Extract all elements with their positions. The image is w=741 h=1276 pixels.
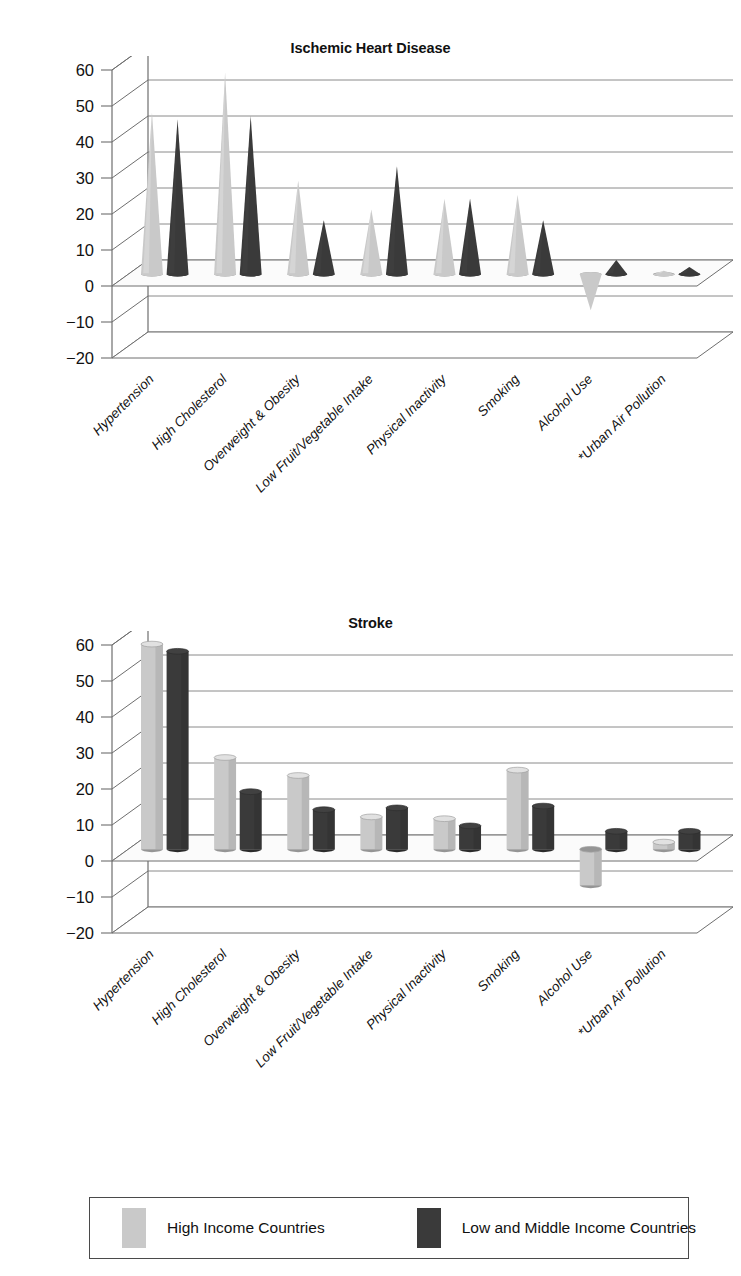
bar-low-middle-income	[605, 828, 627, 852]
chart-legend: High Income Countries Low and Middle Inc…	[89, 1197, 689, 1259]
y-axis-tick-label: −10	[66, 888, 94, 906]
bar-low-middle-income	[313, 807, 335, 852]
bar-high-income	[580, 272, 602, 310]
bar-low-middle-income	[240, 789, 262, 852]
legend-entry-low-middle-income: Low and Middle Income Countries	[417, 1208, 696, 1248]
legend-swatch-dark-icon	[417, 1208, 441, 1248]
plot-area-ischemic-heart-disease: 6050403020100−10−20HypertensionHigh Chol…	[0, 56, 741, 576]
x-axis-category-label: Smoking	[475, 371, 523, 419]
bar-low-middle-income	[532, 803, 554, 852]
y-axis-tick-label: 10	[76, 241, 94, 259]
y-axis-tick-label: 50	[76, 97, 94, 115]
y-axis-tick-label: 40	[76, 133, 94, 151]
chart-title-ischemic-heart-disease: Ischemic Heart Disease	[0, 0, 741, 56]
x-axis-category-label: Alcohol Use	[533, 372, 595, 434]
bar-high-income	[580, 846, 602, 888]
chart-title-stroke: Stroke	[0, 580, 741, 631]
y-axis-tick-label: 0	[85, 277, 94, 295]
x-axis-category-label: Low Fruit/Vegetable Intake	[252, 372, 376, 496]
bar-high-income	[141, 641, 163, 852]
x-axis-category-label: High Cholesterol	[149, 371, 231, 453]
y-axis-tick-label: −20	[66, 924, 94, 942]
plot-area-stroke: 6050403020100−10−20HypertensionHigh Chol…	[0, 631, 741, 1131]
y-axis-tick-label: 50	[76, 672, 94, 690]
bar-low-middle-income	[167, 648, 189, 852]
y-axis-tick-label: 40	[76, 708, 94, 726]
x-axis-category-label: Smoking	[475, 946, 523, 994]
bar-low-middle-income	[459, 823, 481, 852]
y-axis-tick-label: 60	[76, 61, 94, 79]
x-axis-category-label: Alcohol Use	[533, 947, 595, 1009]
x-axis-category-label: Physical Inactivity	[363, 946, 450, 1033]
y-axis-tick-label: 30	[76, 169, 94, 187]
chart-ischemic-heart-disease: Ischemic Heart Disease 6050403020100−10−…	[0, 0, 741, 580]
x-axis-category-label: Hypertension	[90, 372, 157, 439]
chart-stroke: Stroke 6050403020100−10−20HypertensionHi…	[0, 580, 741, 1140]
y-axis-tick-label: 10	[76, 816, 94, 834]
x-axis-category-label: Hypertension	[90, 947, 157, 1014]
y-axis-tick-label: 0	[85, 852, 94, 870]
y-axis-tick-label: 20	[76, 780, 94, 798]
y-axis-tick-label: −20	[66, 349, 94, 367]
bar-high-income	[507, 767, 529, 852]
plot-svg-ischemic-heart-disease: 6050403020100−10−20HypertensionHigh Chol…	[0, 56, 741, 576]
legend-entry-high-income: High Income Countries	[122, 1208, 325, 1248]
x-axis-category-label: Low Fruit/Vegetable Intake	[252, 947, 376, 1071]
y-axis-tick-label: 20	[76, 205, 94, 223]
x-axis-category-label: High Cholesterol	[149, 946, 231, 1028]
y-axis-tick-label: −10	[66, 313, 94, 331]
legend-label-low-middle-income: Low and Middle Income Countries	[462, 1219, 696, 1237]
bar-low-middle-income	[678, 828, 700, 852]
bar-high-income	[360, 814, 382, 852]
bar-high-income	[287, 773, 309, 853]
x-axis-category-label: Physical Inactivity	[363, 371, 450, 458]
legend-label-high-income: High Income Countries	[167, 1219, 325, 1237]
bar-high-income	[214, 755, 236, 853]
plot-svg-stroke: 6050403020100−10−20HypertensionHigh Chol…	[0, 631, 741, 1131]
bar-low-middle-income	[386, 805, 408, 852]
legend-swatch-light-icon	[122, 1208, 146, 1248]
y-axis-tick-label: 60	[76, 636, 94, 654]
bar-high-income	[433, 816, 455, 852]
bar-high-income	[653, 839, 675, 852]
y-axis-tick-label: 30	[76, 744, 94, 762]
